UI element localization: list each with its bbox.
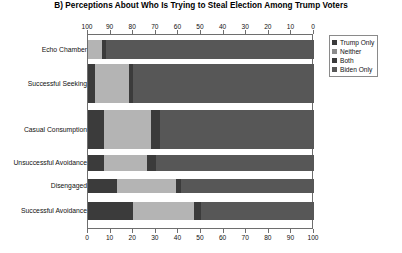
bar-segment-trump-only xyxy=(88,64,95,103)
legend-item: Biden Only xyxy=(332,65,374,74)
bottom-axis-tick-label: 100 xyxy=(307,234,318,241)
category-label: Successful Seeking xyxy=(28,79,87,86)
bottom-axis-tick xyxy=(313,229,314,233)
category-label: Disengaged xyxy=(51,182,87,189)
bar-row xyxy=(88,202,314,220)
bar-segment-neither xyxy=(117,179,176,193)
bar-row xyxy=(88,155,314,171)
bar-segment-biden-only xyxy=(201,202,314,220)
legend-item: Trump Only xyxy=(332,38,374,47)
bar-segment-neither xyxy=(104,110,151,149)
bottom-axis: 0102030405060708090100 xyxy=(87,229,313,245)
bottom-axis-tick-label: 30 xyxy=(151,234,158,241)
bottom-axis-tick-label: 10 xyxy=(106,234,113,241)
chart-legend: Trump OnlyNeitherBothBiden Only xyxy=(329,35,378,77)
bottom-axis-tick xyxy=(177,229,178,233)
bottom-axis-tick xyxy=(200,229,201,233)
top-axis-tick-label: 100 xyxy=(81,23,92,30)
bottom-axis-tick xyxy=(268,229,269,233)
legend-swatch-icon xyxy=(332,40,337,45)
legend-item: Both xyxy=(332,56,374,65)
bottom-axis-tick xyxy=(87,229,88,233)
top-axis-tick-label: 40 xyxy=(219,23,226,30)
legend-item: Neither xyxy=(332,47,374,56)
bar-segment-biden-only xyxy=(181,179,314,193)
bar-segment-biden-only xyxy=(106,40,314,59)
bar-row xyxy=(88,64,314,103)
top-axis-tick-label: 10 xyxy=(287,23,294,30)
bar-segment-neither xyxy=(133,202,194,220)
top-axis-tick xyxy=(313,30,314,34)
bar-row xyxy=(88,40,314,59)
bar-segment-both xyxy=(194,202,201,220)
bottom-axis-tick-label: 70 xyxy=(242,234,249,241)
bottom-axis-tick xyxy=(223,229,224,233)
bottom-axis-tick-label: 0 xyxy=(85,234,89,241)
top-axis-tick-label: 30 xyxy=(242,23,249,30)
top-axis-tick-label: 80 xyxy=(129,23,136,30)
bottom-axis-tick-label: 90 xyxy=(287,234,294,241)
bar-row xyxy=(88,179,314,193)
bottom-axis-tick-label: 80 xyxy=(264,234,271,241)
category-label: Unsuccessful Avoidance xyxy=(13,159,87,166)
bar-segment-neither xyxy=(88,40,102,59)
bar-segment-trump-only xyxy=(88,202,133,220)
legend-label: Trump Only xyxy=(340,38,374,47)
bottom-axis-tick-label: 60 xyxy=(219,234,226,241)
bottom-axis-tick xyxy=(110,229,111,233)
bar-segment-biden-only xyxy=(133,64,314,103)
bottom-axis-tick-label: 50 xyxy=(196,234,203,241)
bar-segment-trump-only xyxy=(88,155,104,171)
legend-swatch-icon xyxy=(332,58,337,63)
plot-area xyxy=(87,34,313,229)
legend-label: Both xyxy=(340,56,354,65)
legend-swatch-icon xyxy=(332,49,337,54)
top-axis-tick-label: 70 xyxy=(151,23,158,30)
chart-title: B) Perceptions About Who Is Trying to St… xyxy=(0,1,402,10)
top-axis-tick-label: 60 xyxy=(174,23,181,30)
bottom-axis-tick xyxy=(290,229,291,233)
top-axis-tick-label: 0 xyxy=(311,23,315,30)
legend-label: Neither xyxy=(340,47,361,56)
bar-segment-neither xyxy=(104,155,147,171)
top-axis-tick-label: 90 xyxy=(106,23,113,30)
legend-swatch-icon xyxy=(332,67,337,72)
bottom-axis-tick xyxy=(155,229,156,233)
bottom-axis-tick-label: 40 xyxy=(174,234,181,241)
bar-row xyxy=(88,110,314,149)
bar-segment-neither xyxy=(95,64,129,103)
bar-segment-both xyxy=(147,155,156,171)
bottom-axis-tick-label: 20 xyxy=(129,234,136,241)
bar-segment-biden-only xyxy=(156,155,314,171)
top-axis-tick-label: 50 xyxy=(196,23,203,30)
category-label: Echo Chamber xyxy=(42,45,87,52)
legend-label: Biden Only xyxy=(340,65,372,74)
bar-segment-both xyxy=(151,110,160,149)
bar-segment-biden-only xyxy=(160,110,314,149)
top-axis-tick-label: 20 xyxy=(264,23,271,30)
category-label: Casual Consumption xyxy=(24,125,87,132)
top-axis: 1009080706050403020100 xyxy=(87,21,313,34)
bottom-axis-tick xyxy=(245,229,246,233)
category-label: Successful Avoidance xyxy=(21,207,87,214)
bar-segment-trump-only xyxy=(88,179,117,193)
chart-figure: B) Perceptions About Who Is Trying to St… xyxy=(0,0,402,253)
bar-segment-trump-only xyxy=(88,110,104,149)
bottom-axis-tick xyxy=(132,229,133,233)
